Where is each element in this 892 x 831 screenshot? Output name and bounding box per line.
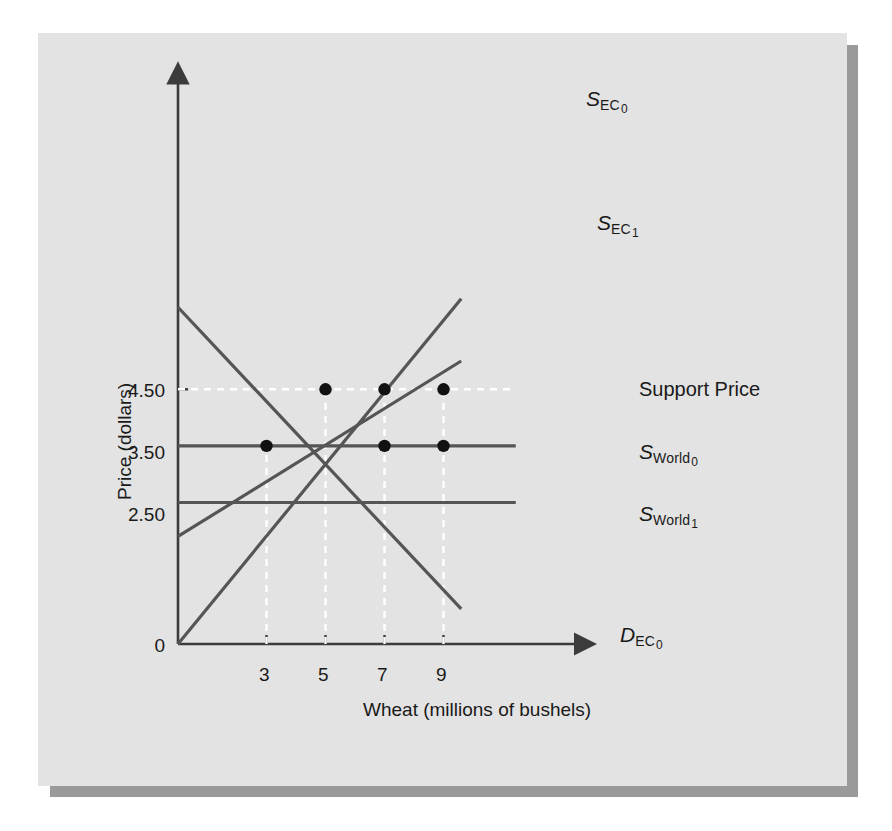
curve-label-sub: World [653,450,690,466]
data-point-marker [260,440,272,452]
curve-label-main: S [586,87,600,110]
curve-label-sub2: 0 [691,455,698,469]
curve-s-ec-1 [178,361,461,536]
curve-label-sub: EC [600,97,620,113]
origin-label: 0 [135,636,165,655]
curve-label-s-world-0: SWorld0 [639,441,697,462]
curve-label-sub: EC [611,221,631,237]
curve-label-main: S [597,211,611,234]
x-tick-label-5: 5 [318,665,329,684]
x-tick-label-7: 7 [377,665,388,684]
x-tick-label-9: 9 [436,665,447,684]
curve-label-s-ec-0: SEC0 [586,88,627,109]
data-point-marker [319,383,331,395]
data-point-marker [378,440,390,452]
curve-label-s-ec-1: SEC1 [597,212,638,233]
x-axis-title: Wheat (millions of bushels) [363,700,591,719]
curve-label-main: S [639,440,653,463]
curve-label-sub2: 1 [632,226,639,240]
curve-label-sub: EC [635,633,655,649]
annotation-support-price: Support Price [639,379,760,399]
curve-label-d-ec-0: DEC0 [620,624,662,645]
curve-label-s-world-1: SWorld1 [639,503,697,524]
y-tick-label-450: 4.50 [110,381,165,400]
curve-label-sub: World [653,512,690,528]
data-point-marker [437,383,449,395]
curve-label-sub2: 0 [656,638,663,652]
y-tick-label-350: 3.50 [110,443,165,462]
curve-label-sub2: 0 [621,102,628,116]
curve-label-main: S [639,502,653,525]
curve-label-main: D [620,623,635,646]
y-tick-label-250: 2.50 [110,505,165,524]
data-point-marker [378,383,390,395]
x-tick-label-3: 3 [259,665,270,684]
data-point-marker [437,440,449,452]
figure-root: Wheat (millions of bushels) Price (dolla… [0,0,892,831]
curve-label-sub2: 1 [691,517,698,531]
